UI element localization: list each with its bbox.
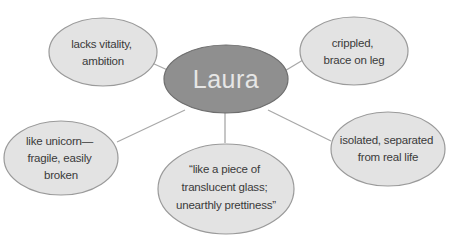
bubble-line: translucent glass; (182, 181, 268, 193)
center-label: Laura (193, 65, 259, 93)
bubble-shape (331, 112, 445, 186)
bubble-line: brace on leg (324, 54, 385, 66)
bubble-line: broken (44, 169, 78, 181)
connector-left (117, 110, 185, 142)
node-unicorn: like unicorn— fragile, easily broken (4, 121, 118, 195)
node-translucent-glass: “like a piece of translucent glass; unea… (158, 144, 294, 234)
connector-right (268, 110, 331, 141)
bubble-line: ambition (82, 55, 124, 67)
node-isolated: isolated, separated from real life (331, 112, 445, 186)
bubble-shape (300, 17, 408, 85)
bubble-line: unearthly prettiness” (176, 199, 276, 211)
bubble-line: from real life (358, 151, 418, 163)
center-node-laura: Laura (164, 45, 288, 113)
bubble-line: lacks vitality, (71, 38, 132, 50)
node-lacks-vitality: lacks vitality, ambition (49, 18, 157, 86)
bubble-line: fragile, easily (27, 152, 92, 164)
bubble-line: isolated, separated (340, 134, 433, 146)
bubble-shape (49, 18, 157, 86)
bubble-line: like unicorn— (26, 135, 94, 147)
bubble-line: crippled, (332, 37, 374, 49)
bubble-text: “like a piece of translucent glass; unea… (176, 163, 276, 211)
node-crippled: crippled, brace on leg (300, 17, 408, 85)
bubble-line: “like a piece of (189, 163, 261, 175)
concept-web-diagram: lacks vitality, ambition crippled, brace… (0, 0, 451, 237)
